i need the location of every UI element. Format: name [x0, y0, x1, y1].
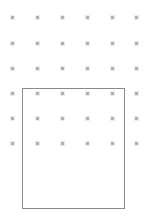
grid-dot	[36, 67, 39, 70]
grid-dot	[86, 67, 89, 70]
grid-dot	[11, 16, 14, 19]
grid-dot	[86, 42, 89, 45]
grid-dot	[86, 16, 89, 19]
grid-dot	[135, 16, 138, 19]
grid-dot	[36, 42, 39, 45]
grid-dot	[111, 42, 114, 45]
drawing-canvas[interactable]	[0, 0, 147, 221]
grid-dot	[61, 67, 64, 70]
grid-dot	[135, 42, 138, 45]
grid-dot	[111, 16, 114, 19]
grid-dot	[135, 92, 138, 95]
grid-dot	[11, 92, 14, 95]
grid-dot	[111, 67, 114, 70]
grid-dot	[11, 117, 14, 120]
grid-dot	[11, 142, 14, 145]
grid-dot	[11, 42, 14, 45]
grid-dot	[135, 117, 138, 120]
grid-dot	[61, 42, 64, 45]
grid-dot	[36, 16, 39, 19]
grid-dot	[135, 142, 138, 145]
grid-dot	[11, 67, 14, 70]
shape-rectangle[interactable]	[22, 88, 125, 209]
grid-dot	[61, 16, 64, 19]
grid-dot	[135, 67, 138, 70]
